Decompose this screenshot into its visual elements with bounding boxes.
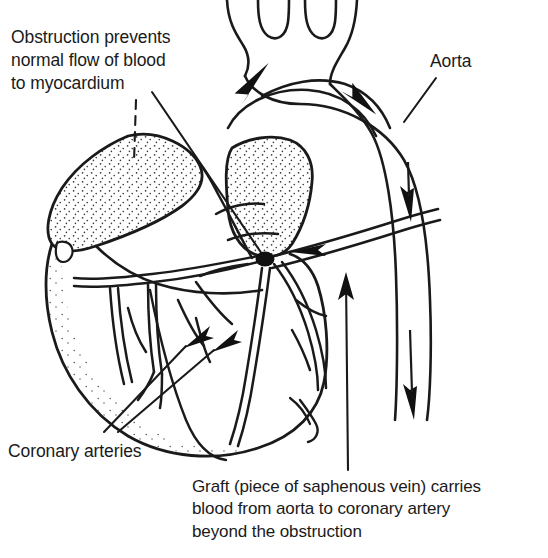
label-obstruction: Obstruction prevents normal flow of bloo…: [11, 26, 170, 94]
brachiocephalic-branches: [258, 0, 336, 38]
aorta-leader-line: [404, 78, 436, 122]
obstruction-plaque: [256, 252, 275, 267]
right-atrium: [226, 137, 312, 257]
label-coronary-arteries: Coronary arteries: [8, 440, 142, 463]
ventricular-outline: [46, 244, 327, 456]
descending-flow-arrow-lower: [403, 384, 417, 420]
aorta-inner-wall: [330, 0, 397, 420]
coronary-arrowhead-upper: [212, 330, 242, 352]
aortic-arch-lumen: [262, 80, 390, 128]
caption-graft: Graft (piece of saphenous vein) carries …: [192, 476, 481, 543]
ascending-flow-arrow: [233, 63, 272, 105]
left-border-notch: [56, 242, 73, 262]
flow-arrowheads: [184, 63, 417, 420]
graft-leader-line: [346, 278, 348, 470]
label-aorta: Aorta: [430, 50, 471, 73]
left-atrial-appendage: [48, 134, 202, 251]
